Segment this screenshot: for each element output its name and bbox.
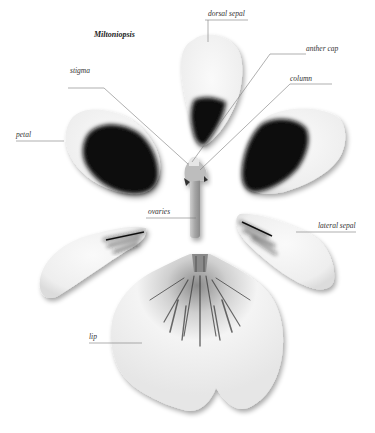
label-anther-cap: anther cap: [306, 44, 338, 53]
lip-shape: [111, 254, 283, 411]
diagram-title: Miltoniopsis: [94, 30, 135, 39]
left-lateral-sepal-shape: [40, 227, 147, 298]
orchid-diagram: Miltoniopsis dorsal sepal anther cap col…: [0, 0, 375, 433]
orchid-illustration: [0, 0, 375, 433]
label-stigma: stigma: [70, 66, 90, 75]
label-ovaries: ovaries: [148, 207, 170, 216]
label-petal: petal: [16, 130, 31, 139]
label-column: column: [290, 74, 312, 83]
label-lateral-sepal: lateral sepal: [318, 221, 356, 230]
label-dorsal-sepal: dorsal sepal: [208, 9, 245, 18]
column-ovary-shape: [184, 157, 208, 238]
dorsal-sepal-shape: [181, 35, 242, 146]
left-petal-shape: [66, 110, 161, 195]
right-petal-shape: [241, 109, 345, 194]
label-lip: lip: [89, 332, 97, 341]
